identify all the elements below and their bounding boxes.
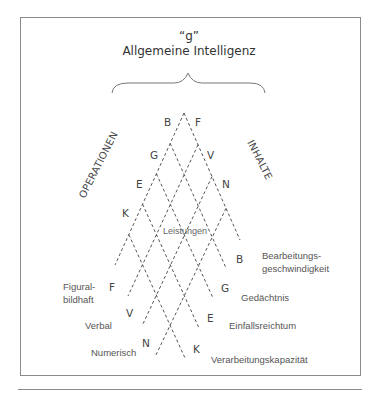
content-letter-n: N <box>222 179 230 190</box>
lattice-diagram <box>0 0 378 394</box>
operation-letter-k: K <box>122 208 129 219</box>
operation-label-k: Verarbeitungskapazität <box>211 355 308 365</box>
lattice-line <box>142 177 212 327</box>
content-bottom-letter-v: V <box>126 308 133 319</box>
operation-bottom-letter-k: K <box>193 344 200 355</box>
lattice-line <box>170 143 226 268</box>
content-letter-v: V <box>207 150 214 161</box>
operation-bottom-letter-e: E <box>207 313 214 324</box>
operation-label-g: Gedächtnis <box>241 293 289 303</box>
center-label: Leistungen <box>163 227 207 236</box>
content-label-n: Numerisch <box>91 348 136 358</box>
operation-letter-b: B <box>164 117 171 128</box>
lattice-line <box>128 145 198 296</box>
content-bottom-letter-n: N <box>142 338 150 349</box>
operation-label-b-line2: geschwindigkeit <box>262 264 329 274</box>
operation-letter-g: G <box>150 150 158 161</box>
curly-brace <box>112 73 265 93</box>
content-bottom-letter-f: F <box>109 282 115 293</box>
content-label-v: Verbal <box>85 321 112 331</box>
lattice-line <box>115 113 184 265</box>
operation-bottom-letter-b: B <box>236 254 243 265</box>
content-label-f-line2: bildhaft <box>63 295 94 305</box>
operation-label-b-line1: Bearbeitungs- <box>262 251 321 261</box>
content-label-f-line1: Figural- <box>63 282 95 292</box>
content-letter-f: F <box>195 117 201 128</box>
operation-bottom-letter-g: G <box>221 283 229 294</box>
operation-label-e: Einfallsreichtum <box>229 321 296 331</box>
operation-letter-e: E <box>136 179 143 190</box>
